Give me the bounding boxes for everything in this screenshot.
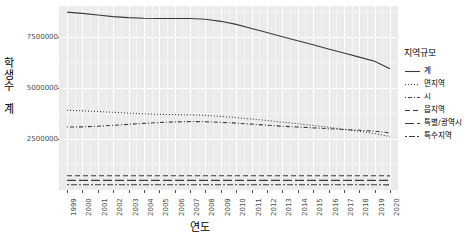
legend-item-label: 특별/광역시 xyxy=(424,116,462,127)
chart-root: 학 생 수 _ 계 250000050000007500000 19992000… xyxy=(0,0,464,236)
legend-item-시[interactable]: 시 xyxy=(404,89,464,102)
x-tick-label: 2010 xyxy=(239,198,247,216)
y-tick-label: 5000000 xyxy=(17,84,58,92)
x-tick-mark xyxy=(175,190,176,193)
x-tick-label: 2015 xyxy=(316,198,324,216)
x-axis-title: 연도 xyxy=(0,218,400,234)
x-tick-mark xyxy=(267,190,268,193)
x-tick-mark xyxy=(252,190,253,193)
x-tick-label: 2017 xyxy=(347,198,355,216)
x-tick-label: 2019 xyxy=(378,198,386,216)
x-tick-mark xyxy=(190,190,191,193)
x-tick-label: 2000 xyxy=(85,198,93,216)
x-tick-label: 2016 xyxy=(332,198,340,216)
x-tick-mark xyxy=(282,190,283,193)
y-axis-ticks: 250000050000007500000 xyxy=(14,0,58,190)
x-tick-mark xyxy=(329,190,330,193)
x-tick-mark xyxy=(236,190,237,193)
legend-item-label: 시 xyxy=(424,90,431,101)
plot-panel xyxy=(59,6,398,190)
legend-key-icon xyxy=(404,102,421,115)
legend-key-icon xyxy=(404,128,421,141)
x-tick-label: 2008 xyxy=(208,198,216,216)
x-tick-mark xyxy=(359,190,360,193)
legend: 지역규모 계면지역시읍지역특별/광역시특수지역 xyxy=(404,46,464,141)
x-tick-mark xyxy=(82,190,83,193)
x-tick-label: 2011 xyxy=(255,198,263,216)
x-tick-mark xyxy=(313,190,314,193)
x-tick-label: 2012 xyxy=(270,198,278,216)
x-tick-mark xyxy=(159,190,160,193)
series-line-시 xyxy=(67,122,390,133)
x-tick-label: 2003 xyxy=(132,198,140,216)
series-line-계 xyxy=(67,12,390,69)
legend-key-icon xyxy=(404,63,421,76)
x-tick-mark xyxy=(144,190,145,193)
x-tick-mark xyxy=(67,190,68,193)
legend-item-면지역[interactable]: 면지역 xyxy=(404,76,464,89)
y-tick-label: 7500000 xyxy=(17,33,58,41)
x-tick-label: 1999 xyxy=(70,198,78,216)
x-tick-mark xyxy=(98,190,99,193)
x-tick-mark xyxy=(205,190,206,193)
plot-lines xyxy=(59,6,398,190)
x-tick-mark xyxy=(113,190,114,193)
legend-key-icon xyxy=(404,76,421,89)
x-tick-mark xyxy=(390,190,391,193)
legend-title: 지역규모 xyxy=(404,46,464,59)
x-tick-label: 2005 xyxy=(162,198,170,216)
x-tick-label: 2004 xyxy=(147,198,155,216)
legend-key-icon xyxy=(404,89,421,102)
legend-rows: 계면지역시읍지역특별/광역시특수지역 xyxy=(404,63,464,141)
y-tick-label: 2500000 xyxy=(17,135,58,143)
legend-item-특별/광역시[interactable]: 특별/광역시 xyxy=(404,115,464,128)
x-tick-label: 2001 xyxy=(101,198,109,216)
x-tick-mark xyxy=(221,190,222,193)
legend-item-읍지역[interactable]: 읍지역 xyxy=(404,102,464,115)
x-tick-label: 2014 xyxy=(301,198,309,216)
x-tick-mark xyxy=(129,190,130,193)
x-tick-label: 2006 xyxy=(178,198,186,216)
legend-key-icon xyxy=(404,115,421,128)
x-tick-mark xyxy=(298,190,299,193)
legend-item-label: 특수지역 xyxy=(424,129,452,140)
legend-item-label: 읍지역 xyxy=(424,103,445,114)
x-tick-label: 2013 xyxy=(285,198,293,216)
x-tick-label: 2018 xyxy=(362,198,370,216)
x-tick-mark xyxy=(375,190,376,193)
legend-item-label: 면지역 xyxy=(424,77,445,88)
x-tick-mark xyxy=(344,190,345,193)
x-tick-label: 2009 xyxy=(224,198,232,216)
legend-item-계[interactable]: 계 xyxy=(404,63,464,76)
x-axis-ticks: 1999200020012002200320042005200620072008… xyxy=(59,190,398,218)
legend-item-label: 계 xyxy=(424,64,431,75)
x-tick-label: 2007 xyxy=(193,198,201,216)
series-line-면지역 xyxy=(67,110,390,136)
x-tick-label: 2020 xyxy=(393,198,401,216)
x-tick-label: 2002 xyxy=(116,198,124,216)
legend-item-특수지역[interactable]: 특수지역 xyxy=(404,128,464,141)
